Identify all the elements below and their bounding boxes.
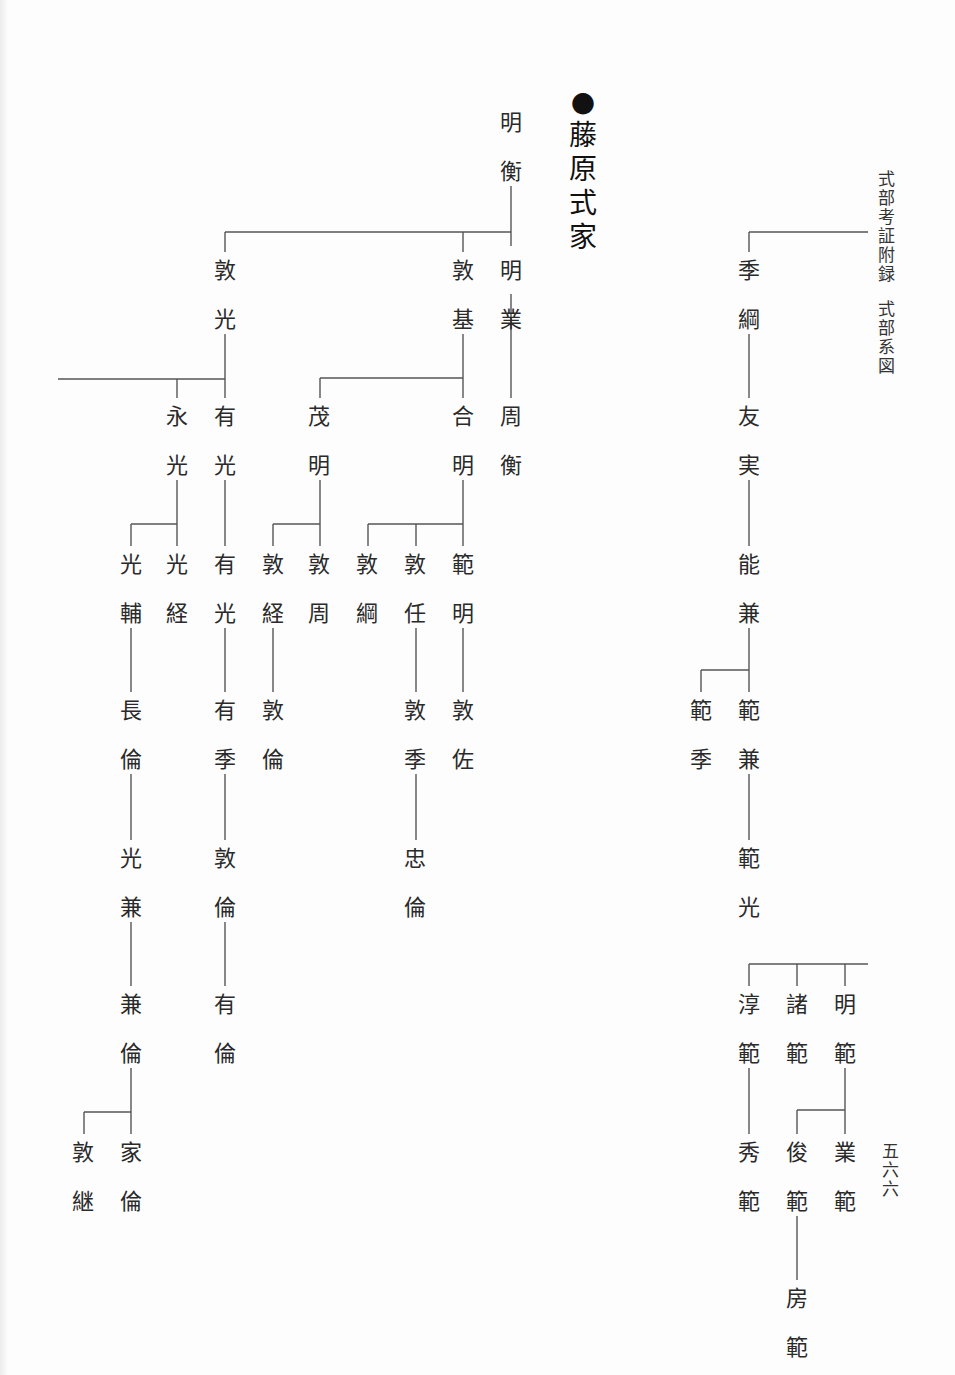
name-char: 倫: [210, 1029, 240, 1078]
person-name-toshinori: 俊範: [782, 1128, 812, 1226]
title-char: 藤: [566, 119, 600, 153]
name-char: 敦: [352, 540, 382, 589]
name-char: 敦: [68, 1128, 98, 1177]
name-char: 有: [210, 980, 240, 1029]
header-char: 部: [874, 189, 898, 208]
name-char: 敦: [210, 246, 240, 295]
person-name-hidenori: 秀範: [734, 1128, 764, 1226]
header-char: 附: [874, 246, 898, 265]
bullet-icon: ●: [566, 85, 600, 119]
name-char: 基: [448, 295, 478, 344]
name-char: 有: [210, 686, 240, 735]
name-char: 季: [686, 735, 716, 784]
name-char: 明: [448, 441, 478, 490]
person-name-tomozane: 友実: [734, 392, 764, 490]
name-char: 任: [400, 589, 430, 638]
name-char: 光: [210, 589, 240, 638]
section-char: 式: [874, 300, 898, 319]
document-page: 式 部 考 証 附 録 式 部 系 図 ● 藤 原 式 家 五 六 六 明衡敦光…: [0, 0, 955, 1375]
name-char: 光: [116, 834, 146, 883]
name-char: 敦: [258, 540, 288, 589]
name-char: 範: [830, 1029, 860, 1078]
person-name-fusanori: 房範: [782, 1274, 812, 1372]
name-char: 範: [448, 540, 478, 589]
name-char: 能: [734, 540, 764, 589]
name-char: 明: [496, 98, 526, 147]
person-name-arisue: 有季: [210, 686, 240, 784]
name-char: 倫: [116, 735, 146, 784]
person-name-atsutada: 敦任: [400, 540, 430, 638]
name-char: 兼: [116, 980, 146, 1029]
name-char: 淳: [734, 980, 764, 1029]
name-char: 明: [496, 246, 526, 295]
name-char: 倫: [258, 735, 288, 784]
name-char: 倫: [400, 883, 430, 932]
person-name-akihira: 明衡: [496, 98, 526, 196]
person-name-atsunori2: 敦倫: [210, 834, 240, 932]
person-name-ienori: 家倫: [116, 1128, 146, 1226]
name-char: 倫: [210, 883, 240, 932]
name-char: 輔: [116, 589, 146, 638]
name-char: 範: [830, 1177, 860, 1226]
person-name-akinori: 明範: [830, 980, 860, 1078]
name-char: 光: [162, 441, 192, 490]
page-number: 五 六 六: [878, 1142, 902, 1199]
name-char: 光: [210, 441, 240, 490]
running-header: 式 部 考 証 附 録 式 部 系 図: [874, 170, 898, 376]
title-char: 家: [566, 221, 600, 255]
header-char: 式: [874, 170, 898, 189]
family-title: ● 藤 原 式 家: [566, 85, 600, 255]
name-char: 光: [116, 540, 146, 589]
name-char: 敦: [448, 246, 478, 295]
name-char: 長: [116, 686, 146, 735]
name-char: 経: [162, 589, 192, 638]
person-name-moronori: 諸範: [782, 980, 812, 1078]
name-char: 光: [734, 883, 764, 932]
name-char: 有: [210, 392, 240, 441]
name-char: 房: [782, 1274, 812, 1323]
name-char: 茂: [304, 392, 334, 441]
name-char: 経: [258, 589, 288, 638]
name-char: 倫: [116, 1029, 146, 1078]
name-char: 綱: [734, 295, 764, 344]
name-char: 佐: [448, 735, 478, 784]
name-char: 継: [68, 1177, 98, 1226]
name-char: 衡: [496, 147, 526, 196]
person-name-atsusue: 敦季: [400, 686, 430, 784]
person-name-arinori: 有倫: [210, 980, 240, 1078]
person-name-arimitsu: 有光: [210, 392, 240, 490]
person-name-atsutsugu: 敦継: [68, 1128, 98, 1226]
person-name-akinari: 明業: [496, 246, 526, 344]
name-char: 敦: [448, 686, 478, 735]
name-char: 周: [304, 589, 334, 638]
name-char: 範: [734, 1029, 764, 1078]
name-char: 家: [116, 1128, 146, 1177]
name-char: 敦: [210, 834, 240, 883]
person-name-arimitsu2: 有光: [210, 540, 240, 638]
name-char: 業: [496, 295, 526, 344]
person-name-norisue: 範季: [686, 686, 716, 784]
person-name-nagamitsu: 永光: [162, 392, 192, 490]
name-char: 明: [830, 980, 860, 1029]
person-name-atsunori3: 淳範: [734, 980, 764, 1078]
person-name-chikahira: 周衡: [496, 392, 526, 490]
name-char: 敦: [400, 686, 430, 735]
person-name-mitsutsune: 光経: [162, 540, 192, 638]
page-number-char: 六: [878, 1180, 902, 1199]
person-name-noriaki: 範明: [448, 540, 478, 638]
person-name-mitsusuke: 光輔: [116, 540, 146, 638]
name-char: 光: [162, 540, 192, 589]
person-name-atsusuke: 敦佐: [448, 686, 478, 784]
name-char: 友: [734, 392, 764, 441]
person-name-atsumoto: 敦基: [448, 246, 478, 344]
person-name-naganori: 長倫: [116, 686, 146, 784]
name-char: 諸: [782, 980, 812, 1029]
name-char: 光: [210, 295, 240, 344]
section-char: 部: [874, 319, 898, 338]
name-char: 敦: [400, 540, 430, 589]
person-name-atsutsuna: 敦綱: [352, 540, 382, 638]
name-char: 合: [448, 392, 478, 441]
name-char: 忠: [400, 834, 430, 883]
person-name-shigeaki: 茂明: [304, 392, 334, 490]
name-char: 倫: [116, 1177, 146, 1226]
